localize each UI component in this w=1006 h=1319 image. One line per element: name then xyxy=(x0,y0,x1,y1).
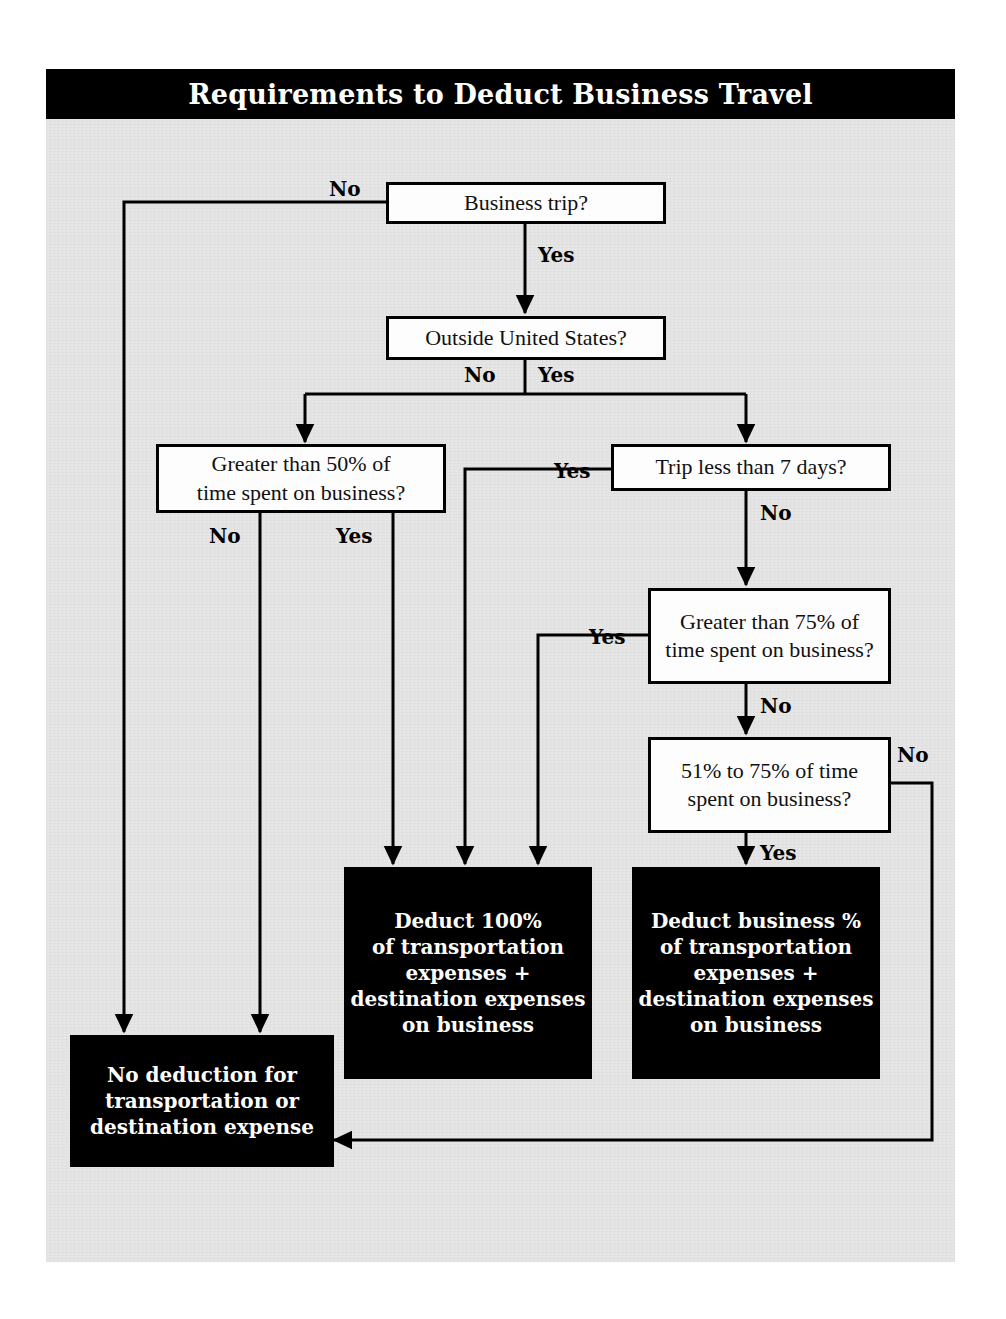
node-deduct-business-percent[interactable]: Deduct business % of transportation expe… xyxy=(632,867,880,1079)
node-no-deduction[interactable]: No deduction for transportation or desti… xyxy=(70,1035,334,1167)
edge-label-business-trip-yes: Yes xyxy=(538,243,575,267)
node-deduct-business-percent-line1: Deduct business % xyxy=(651,908,861,934)
node-greater-than-50-label-line1: Greater than 50% of xyxy=(212,450,391,478)
edge-label-gt75-no: No xyxy=(760,694,792,718)
node-no-deduction-line2: transportation or xyxy=(105,1088,299,1114)
edge-label-gt50-no: No xyxy=(209,524,241,548)
node-trip-less-than-7-days-label: Trip less than 7 days? xyxy=(655,453,846,481)
node-51-to-75-percent-label-line1: 51% to 75% of time xyxy=(681,757,858,785)
edge-label-outside-us-yes: Yes xyxy=(538,363,575,387)
diagram-title-bar: Requirements to Deduct Business Travel xyxy=(46,69,955,119)
node-trip-less-than-7-days[interactable]: Trip less than 7 days? xyxy=(611,444,891,491)
diagram-panel: Requirements to Deduct Business Travel l… xyxy=(46,69,955,1262)
edge-label-outside-us-no: No xyxy=(464,363,496,387)
node-deduct-business-percent-line4: destination expenses xyxy=(638,986,873,1012)
edge-label-pct51-75-yes: Yes xyxy=(760,841,797,865)
node-deduct-100-percent-line5: on business xyxy=(402,1012,534,1038)
node-deduct-100-percent[interactable]: Deduct 100% of transportation expenses +… xyxy=(344,867,592,1079)
edge-label-gt50-yes: Yes xyxy=(336,524,373,548)
edge-label-business-trip-no: No xyxy=(329,177,361,201)
node-deduct-business-percent-line3: expenses + xyxy=(694,960,819,986)
node-no-deduction-line1: No deduction for xyxy=(107,1062,297,1088)
node-business-trip-label: Business trip? xyxy=(464,189,588,217)
page-title: Requirements to Deduct Business Travel xyxy=(188,79,813,110)
node-greater-than-75-label-line2: time spent on business? xyxy=(665,636,873,664)
edge-label-trip-lt7-yes: Yes xyxy=(554,459,591,483)
node-51-to-75-percent-label-line2: spent on business? xyxy=(688,785,852,813)
node-deduct-business-percent-line2: of transportation xyxy=(660,934,852,960)
node-greater-than-75[interactable]: Greater than 75% of time spent on busine… xyxy=(648,588,891,684)
node-greater-than-75-label-line1: Greater than 75% of xyxy=(680,608,859,636)
node-deduct-business-percent-line5: on business xyxy=(690,1012,822,1038)
node-outside-united-states[interactable]: Outside United States? xyxy=(386,316,666,360)
node-greater-than-50-label-line2: time spent on business? xyxy=(197,479,405,507)
edge-label-trip-lt7-no: No xyxy=(760,501,792,525)
node-outside-united-states-label: Outside United States? xyxy=(425,324,627,352)
node-deduct-100-percent-line1: Deduct 100% xyxy=(394,908,542,934)
edge-label-pct51-75-no: No xyxy=(897,743,929,767)
edge-label-gt75-yes: Yes xyxy=(589,625,626,649)
node-deduct-100-percent-line2: of transportation xyxy=(372,934,564,960)
node-deduct-100-percent-line4: destination expenses xyxy=(350,986,585,1012)
node-51-to-75-percent[interactable]: 51% to 75% of time spent on business? xyxy=(648,737,891,833)
node-no-deduction-line3: destination expense xyxy=(90,1114,314,1140)
node-business-trip[interactable]: Business trip? xyxy=(386,182,666,224)
node-deduct-100-percent-line3: expenses + xyxy=(406,960,531,986)
node-greater-than-50[interactable]: Greater than 50% of time spent on busine… xyxy=(156,444,446,513)
